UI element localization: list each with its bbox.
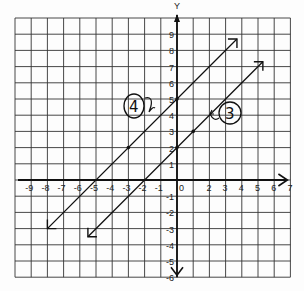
svg-text:9: 9 bbox=[169, 30, 174, 40]
svg-text:6: 6 bbox=[169, 79, 174, 89]
svg-text:0: 0 bbox=[179, 183, 184, 193]
tick-labels: -9-8-7-6-5-4-3-2-10234567987654321-1-2-3… bbox=[25, 30, 292, 283]
svg-text:-9: -9 bbox=[25, 183, 33, 193]
svg-text:6: 6 bbox=[271, 183, 276, 193]
svg-text:-5: -5 bbox=[166, 257, 174, 267]
annotation-3: 3 bbox=[210, 102, 241, 124]
svg-text:7: 7 bbox=[169, 63, 174, 73]
svg-text:-7: -7 bbox=[58, 183, 66, 193]
coordinate-graph: -9-8-7-6-5-4-3-2-10234567987654321-1-2-3… bbox=[0, 0, 304, 291]
svg-text:-3: -3 bbox=[166, 225, 174, 235]
svg-text:4: 4 bbox=[239, 183, 244, 193]
svg-text:1: 1 bbox=[169, 160, 174, 170]
svg-text:2: 2 bbox=[206, 183, 211, 193]
svg-text:3: 3 bbox=[223, 183, 228, 193]
annotation-4: 4 bbox=[124, 94, 155, 118]
svg-text:-1: -1 bbox=[166, 192, 174, 202]
svg-text:-6: -6 bbox=[166, 273, 174, 283]
y-axis-label: Y bbox=[174, 1, 180, 11]
svg-text:4: 4 bbox=[169, 111, 174, 121]
svg-text:3: 3 bbox=[169, 127, 174, 137]
svg-text:-8: -8 bbox=[41, 183, 49, 193]
svg-text:-1: -1 bbox=[155, 183, 163, 193]
svg-text:-3: -3 bbox=[122, 183, 130, 193]
svg-text:5: 5 bbox=[255, 183, 260, 193]
svg-text:-4: -4 bbox=[106, 183, 114, 193]
svg-text:-2: -2 bbox=[166, 208, 174, 218]
grid bbox=[15, 18, 290, 277]
axes bbox=[18, 14, 287, 277]
svg-text:-6: -6 bbox=[74, 183, 82, 193]
svg-text:7: 7 bbox=[287, 183, 292, 193]
svg-text:4: 4 bbox=[129, 98, 139, 116]
svg-text:8: 8 bbox=[169, 46, 174, 56]
svg-text:-4: -4 bbox=[166, 241, 174, 251]
svg-text:3: 3 bbox=[225, 105, 235, 123]
